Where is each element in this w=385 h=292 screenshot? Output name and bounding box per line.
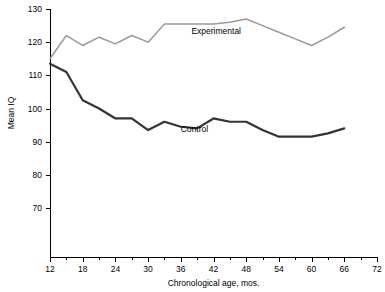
x-tick-label: 36 (176, 264, 186, 274)
x-tick-label: 30 (143, 264, 153, 274)
y-axis-title: Mean IQ (6, 96, 16, 129)
y-tick-label: 100 (28, 104, 42, 114)
y-tick-label: 90 (33, 137, 43, 147)
x-tick-label: 12 (45, 264, 55, 274)
x-tick-label: 18 (78, 264, 88, 274)
x-axis-title: Chronological age, mos. (168, 278, 260, 288)
y-tick-label: 120 (28, 37, 42, 47)
x-tick-label: 66 (340, 264, 350, 274)
y-tick-label: 80 (33, 170, 43, 180)
line-chart: 7080901001101201301218243036424854606672… (0, 0, 385, 292)
y-tick-label: 110 (28, 70, 42, 80)
x-tick-label: 60 (307, 264, 317, 274)
x-tick-label: 24 (111, 264, 121, 274)
chart-figure: 7080901001101201301218243036424854606672… (0, 0, 385, 292)
y-tick-label: 130 (28, 4, 42, 14)
y-tick-label: 70 (33, 203, 43, 213)
series-label-control: Control (181, 124, 209, 134)
x-tick-label: 42 (209, 264, 219, 274)
series-label-experimental: Experimental (191, 26, 241, 36)
x-tick-label: 54 (274, 264, 284, 274)
x-tick-label: 48 (241, 264, 251, 274)
x-tick-label: 72 (372, 264, 382, 274)
